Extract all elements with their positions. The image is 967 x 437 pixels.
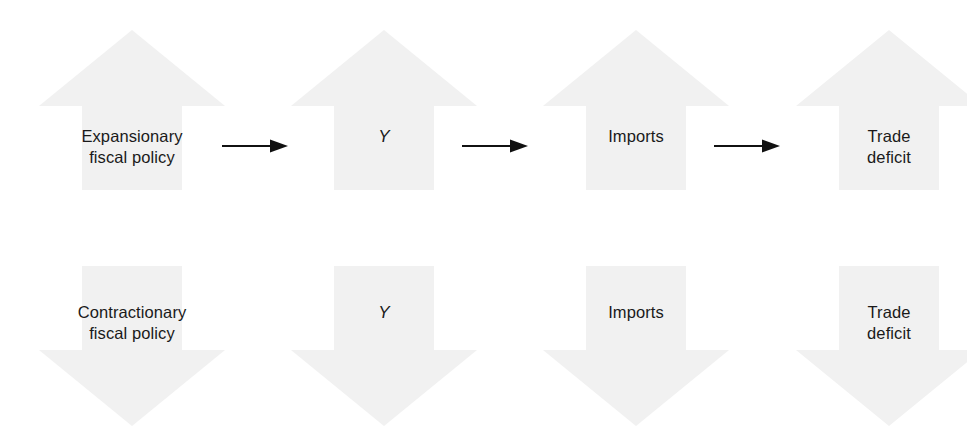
node-trade-deficit: Trade deficit [796,30,967,190]
node-label: Y [291,126,477,147]
node-label: Imports [543,126,729,147]
down-arrow-icon [543,266,729,426]
node-trade-deficit: Trade deficit [796,266,967,426]
down-arrow-icon [796,266,967,426]
node-label: Expansionary fiscal policy [39,126,225,168]
node-output-y: Y [291,30,477,190]
node-contractionary-fiscal-policy: Contractionary fiscal policy [39,266,225,426]
up-arrow-icon [543,30,729,190]
up-arrow-icon [291,30,477,190]
node-imports: Imports [543,30,729,190]
right-arrow-icon [714,136,780,156]
node-output-y: Y [291,266,477,426]
node-label: Y [291,302,477,323]
node-label: Trade deficit [796,302,967,344]
node-label: Contractionary fiscal policy [39,302,225,344]
right-arrow-icon [222,136,288,156]
contractionary-fiscal-policy-row: Contractionary fiscal policy Y Imp [0,218,967,437]
connector-arrow-1 [222,136,288,156]
node-label: Trade deficit [796,126,967,168]
connector-arrow-3 [714,136,780,156]
node-expansionary-fiscal-policy: Expansionary fiscal policy [39,30,225,190]
node-label: Imports [543,302,729,323]
connector-arrow-2 [462,136,528,156]
right-arrow-icon [462,136,528,156]
flow-diagram: Expansionary fiscal policy Y Impor [0,0,967,437]
down-arrow-icon [291,266,477,426]
expansionary-fiscal-policy-row: Expansionary fiscal policy Y Impor [0,0,967,219]
node-imports: Imports [543,266,729,426]
down-arrow-icon [39,266,225,426]
